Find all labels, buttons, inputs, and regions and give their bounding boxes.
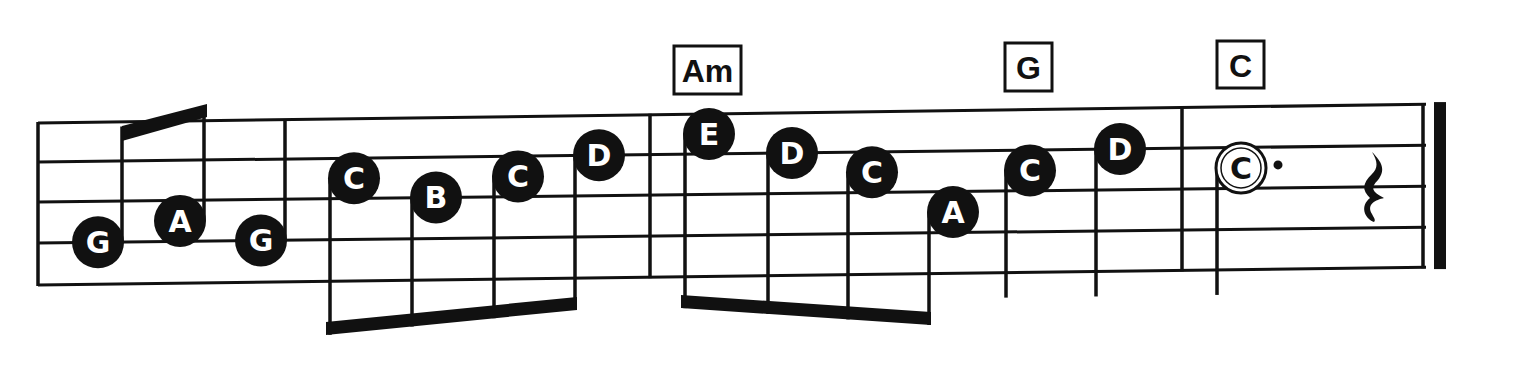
- chord-symbol-c: C: [1217, 41, 1264, 88]
- augmentation-dot: [1274, 160, 1283, 169]
- note-c: C: [846, 146, 898, 198]
- note-letter: G: [86, 225, 111, 260]
- note-c: C: [1216, 143, 1283, 193]
- chord-symbols: AmGC: [674, 41, 1264, 94]
- note-letter: C: [1019, 153, 1041, 188]
- note-e: E: [683, 108, 735, 160]
- note-d: D: [573, 129, 625, 181]
- final-thick-barline: [1434, 102, 1446, 269]
- note-letter: A: [941, 195, 965, 230]
- note-letter: E: [699, 117, 720, 152]
- note-letter: D: [1108, 132, 1133, 167]
- note-c: C: [328, 152, 380, 204]
- chord-symbol-g: G: [1005, 43, 1052, 91]
- chord-symbol-am: Am: [674, 46, 741, 94]
- note-letter: C: [861, 155, 883, 190]
- beam: [326, 297, 577, 335]
- note-g: G: [72, 216, 124, 268]
- note-letter: C: [507, 159, 529, 194]
- note-letter: A: [168, 204, 192, 239]
- stems: [122, 106, 1217, 335]
- note-letter: C: [1230, 151, 1252, 186]
- note-letter: D: [780, 136, 805, 171]
- note-g: G: [235, 214, 287, 266]
- note-letter: C: [343, 161, 365, 196]
- note-d: D: [766, 127, 818, 179]
- chord-label: Am: [682, 53, 734, 89]
- note-d: D: [1094, 123, 1146, 175]
- note-letter: G: [249, 223, 274, 258]
- note-b: B: [410, 171, 462, 223]
- note-letter: D: [587, 138, 612, 173]
- beam: [681, 295, 931, 325]
- note-a: A: [154, 195, 206, 247]
- chord-label: G: [1016, 50, 1041, 86]
- note-a: A: [927, 186, 979, 238]
- notes: GAGCBCDEDCACDC: [72, 108, 1283, 268]
- note-letter: B: [425, 180, 448, 215]
- note-c: C: [492, 150, 544, 202]
- chord-label: C: [1229, 48, 1252, 84]
- music-score: GAGCBCDEDCACDC AmGC: [0, 0, 1529, 374]
- note-c: C: [1004, 144, 1056, 196]
- staff-line: [38, 104, 1426, 123]
